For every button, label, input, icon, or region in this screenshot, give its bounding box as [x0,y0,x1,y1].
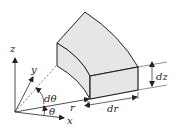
cylindrical-element-diagram: z y x r θ dθ dr dz [0,0,178,134]
dtheta-arc [36,88,44,104]
label-y: y [30,64,37,75]
label-x: x [67,115,73,126]
label-dr: dr [107,103,119,114]
x-axis [15,112,64,118]
theta-arc [44,106,45,116]
label-dtheta: dθ [44,93,56,104]
label-dz: dz [156,71,168,82]
label-theta: θ [49,106,55,117]
label-r: r [70,102,76,113]
volume-element [57,12,138,99]
y-axis [15,77,33,112]
label-z: z [9,43,16,54]
